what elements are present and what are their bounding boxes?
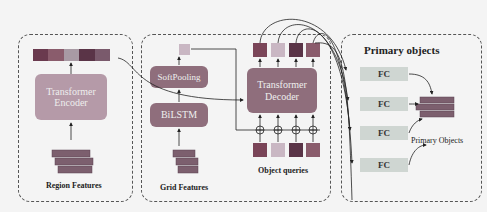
- add-operators: [256, 126, 317, 142]
- grid-features-icon: [173, 150, 198, 173]
- region-features-icon: [52, 150, 93, 173]
- diagram-connectors: [0, 0, 487, 212]
- primary-objects-icon: [416, 97, 454, 117]
